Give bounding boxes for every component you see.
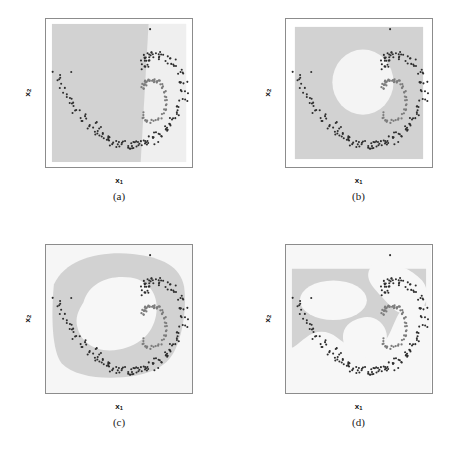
data-point [98, 127, 100, 129]
data-point [101, 361, 103, 363]
data-point [62, 318, 64, 320]
data-point [405, 99, 407, 101]
data-point [121, 143, 123, 145]
data-point [408, 117, 410, 119]
data-point [161, 362, 163, 364]
data-point [149, 122, 151, 124]
data-point [419, 315, 421, 317]
data-point [383, 57, 385, 59]
x-axis-label-sub-a: 1 [120, 179, 123, 185]
data-point [396, 119, 398, 121]
data-point [152, 279, 154, 281]
data-point [422, 72, 424, 74]
data-point [132, 147, 134, 149]
data-point [384, 140, 386, 142]
data-point [175, 285, 177, 287]
data-point [389, 254, 391, 256]
data-point [158, 53, 160, 55]
data-point [178, 340, 180, 342]
data-point [177, 335, 179, 337]
data-point [314, 110, 316, 112]
data-point [312, 331, 314, 333]
data-point [380, 144, 382, 146]
data-point [158, 279, 160, 281]
data-point [424, 325, 426, 327]
data-point [107, 361, 109, 363]
data-point [167, 281, 169, 283]
data-point [58, 304, 60, 306]
data-point [335, 347, 337, 349]
data-point [149, 28, 151, 30]
data-point [364, 140, 366, 142]
data-point [388, 56, 390, 58]
data-point [404, 316, 406, 318]
data-point [419, 82, 421, 84]
data-point [153, 362, 155, 364]
data-point [380, 289, 382, 291]
data-point [426, 92, 428, 94]
data-point [100, 126, 102, 128]
data-point [164, 351, 166, 353]
data-point [388, 285, 390, 287]
data-point [358, 371, 360, 373]
data-point [338, 353, 340, 355]
data-point [160, 343, 162, 345]
data-point [158, 284, 160, 286]
data-point [145, 84, 147, 86]
data-point [382, 111, 384, 113]
data-point [328, 350, 330, 352]
data-point [145, 81, 147, 83]
data-point [158, 58, 160, 60]
data-point [368, 373, 370, 375]
data-point [412, 65, 414, 67]
y-axis-title-a: x2 [22, 18, 34, 168]
data-point [339, 126, 341, 128]
data-point [141, 68, 143, 70]
data-point [397, 305, 399, 307]
data-point [402, 112, 404, 114]
data-point [162, 311, 164, 313]
data-point [419, 71, 421, 73]
data-point [415, 339, 417, 341]
data-point [408, 283, 410, 285]
data-point [426, 100, 428, 102]
data-point [417, 114, 419, 116]
data-point [112, 142, 114, 144]
data-point [402, 338, 404, 340]
data-point [325, 118, 327, 120]
y-axis-label-text-c: x [23, 318, 32, 322]
data-point [404, 330, 406, 332]
data-point [406, 281, 408, 283]
data-point [378, 369, 380, 371]
y-axis-label-text-a: x [23, 92, 32, 96]
x-axis-title-c: x1 [45, 402, 193, 411]
data-point [96, 359, 98, 361]
data-point [58, 78, 60, 80]
scatter-canvas-c [46, 245, 192, 393]
data-point [173, 291, 175, 293]
data-point [152, 120, 154, 122]
data-point [303, 87, 305, 89]
data-point [159, 359, 161, 361]
data-point [417, 73, 419, 75]
data-point [310, 324, 312, 326]
data-point [165, 330, 167, 332]
data-point [140, 366, 142, 368]
data-point [300, 83, 302, 85]
data-point [348, 371, 350, 373]
data-point [70, 71, 72, 73]
data-point [409, 350, 411, 352]
data-point [392, 136, 394, 138]
scatter-canvas-b [286, 19, 432, 167]
data-point [385, 310, 387, 312]
data-point [127, 371, 129, 373]
panel-caption-b: (b) [285, 190, 433, 202]
data-point [355, 146, 357, 148]
data-point [345, 139, 347, 141]
data-point [387, 66, 389, 68]
data-point [165, 322, 167, 324]
data-point [135, 371, 137, 373]
data-point [355, 140, 357, 142]
data-point [163, 338, 165, 340]
data-point [392, 346, 394, 348]
